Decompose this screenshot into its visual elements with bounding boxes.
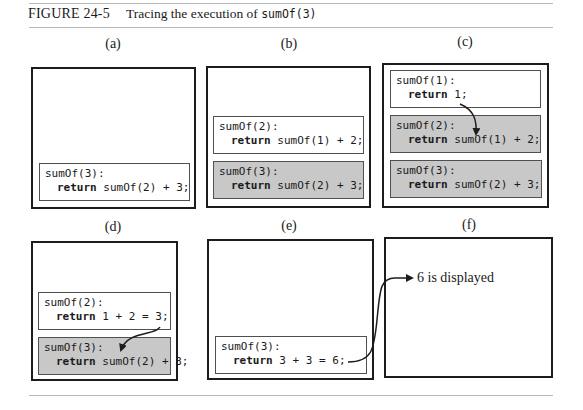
return-keyword: return xyxy=(56,310,96,323)
caption-text: Tracing the execution of xyxy=(126,6,261,21)
stack-frame-sumof3: sumOf(3): return 3 + 3 = 6; xyxy=(215,336,367,374)
return-keyword: return xyxy=(56,355,96,368)
return-keyword: return xyxy=(408,133,448,146)
panel-label-b: (b) xyxy=(269,36,309,52)
frame-header: sumOf(2): xyxy=(219,120,279,133)
return-expression: 1; xyxy=(448,88,468,101)
frame-header: sumOf(2): xyxy=(396,119,456,132)
frame-header: sumOf(3): xyxy=(221,340,281,353)
figure-caption: Tracing the execution of sumOf(3) xyxy=(126,6,317,21)
return-keyword: return xyxy=(57,181,97,194)
figure-title: FIGURE 24-5Tracing the execution of sumO… xyxy=(28,6,317,22)
stack-frame-sumof2: sumOf(2): return 1 + 2 = 3; xyxy=(38,292,171,330)
stack-frame-sumof3: sumOf(3): return sumOf(2) + 3; xyxy=(213,161,364,199)
frame-header: sumOf(3): xyxy=(219,165,279,178)
frame-header: sumOf(3): xyxy=(396,164,456,177)
frame-header: sumOf(3): xyxy=(45,167,105,180)
frame-header: sumOf(3): xyxy=(44,341,104,354)
panel-f xyxy=(384,237,553,378)
return-expression: 3 + 3 = 6; xyxy=(273,354,346,367)
frame-return-line: return 3 + 3 = 6; xyxy=(221,354,346,367)
figure-number: FIGURE 24-5 xyxy=(28,6,110,21)
return-keyword: return xyxy=(231,179,271,192)
return-keyword: return xyxy=(408,88,448,101)
frame-return-line: return sumOf(2) + 3; xyxy=(396,178,540,191)
top-rule xyxy=(29,3,553,4)
frame-return-line: return 1 + 2 = 3; xyxy=(44,310,169,323)
output-text: 6 is displayed xyxy=(417,270,494,286)
return-expression: sumOf(1) + 2; xyxy=(271,134,364,147)
stack-frame-sumof3: sumOf(3): return sumOf(2) + 3; xyxy=(390,160,542,198)
panel-label-a: (a) xyxy=(93,36,133,52)
panel-label-e: (e) xyxy=(269,218,309,234)
frame-return-line: return 1; xyxy=(396,88,468,101)
stack-frame-sumof3: sumOf(3): return sumOf(2) + 3; xyxy=(38,337,171,375)
frame-return-line: return sumOf(1) + 2; xyxy=(396,133,540,146)
stack-frame-sumof2: sumOf(2): return sumOf(1) + 2; xyxy=(390,115,541,153)
return-expression: 1 + 2 = 3; xyxy=(96,310,169,323)
bottom-rule xyxy=(29,395,553,396)
frame-return-line: return sumOf(2) + 3; xyxy=(219,179,363,192)
panel-label-d: (d) xyxy=(93,219,133,235)
return-expression: sumOf(2) + 3; xyxy=(271,179,364,192)
return-keyword: return xyxy=(231,134,271,147)
caption-code: sumOf(3) xyxy=(261,7,316,21)
frame-return-line: return sumOf(1) + 2; xyxy=(219,134,363,147)
frame-return-line: return sumOf(2) + 3; xyxy=(45,181,189,194)
return-expression: sumOf(2) + 3; xyxy=(97,181,190,194)
stack-frame-sumof2: sumOf(2): return sumOf(1) + 2; xyxy=(213,116,364,154)
frame-header: sumOf(1): xyxy=(396,74,456,87)
frame-return-line: return sumOf(2) + 3; xyxy=(44,355,188,368)
return-expression: sumOf(2) + 3; xyxy=(448,178,541,191)
return-expression: sumOf(2) + 3; xyxy=(96,355,189,368)
return-expression: sumOf(1) + 2; xyxy=(448,133,541,146)
return-keyword: return xyxy=(408,178,448,191)
panel-label-c: (c) xyxy=(445,34,485,50)
stack-frame-sumof1: sumOf(1): return 1; xyxy=(390,70,541,108)
panel-label-f: (f) xyxy=(449,217,489,233)
return-keyword: return xyxy=(233,354,273,367)
frame-header: sumOf(2): xyxy=(44,296,104,309)
stack-frame-sumof3: sumOf(3): return sumOf(2) + 3; xyxy=(39,163,190,201)
title-rule xyxy=(29,27,553,28)
